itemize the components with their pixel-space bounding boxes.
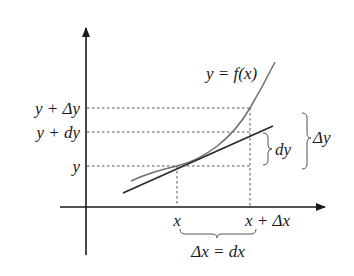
brace-dy (263, 133, 272, 165)
label-x: x (172, 211, 181, 230)
label-delta-y: Δy (312, 128, 331, 147)
differential-diagram: y = f(x) y + Δy y + dy y x x + Δx dy Δy … (0, 0, 354, 276)
label-curve: y = f(x) (204, 64, 257, 83)
label-delta-x-equals-dx: Δx = dx (190, 242, 245, 261)
label-y: y (70, 157, 80, 176)
label-dy: dy (275, 140, 292, 159)
label-x-plus-delta-x: x + Δx (244, 211, 290, 230)
brace-dx (180, 229, 256, 238)
label-y-plus-delta-y: y + Δy (33, 99, 80, 118)
brace-delta-y (302, 113, 311, 169)
label-y-plus-dy: y + dy (34, 123, 80, 142)
